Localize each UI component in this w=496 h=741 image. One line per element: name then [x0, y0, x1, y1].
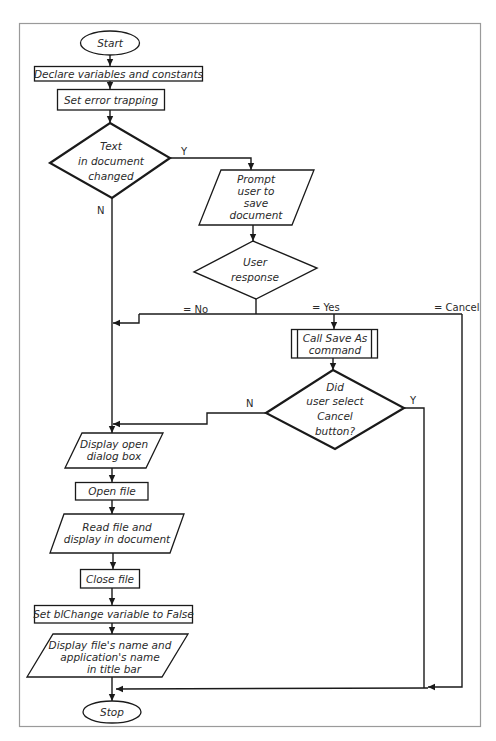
set-blchange-label: Set blChange variable to False: [33, 608, 194, 620]
stop-terminator: Stop: [83, 701, 141, 723]
save-as-subprocess: Call Save As command: [292, 330, 378, 359]
display-dialog-line2: dialog box: [87, 450, 142, 462]
open-file-process: Open file: [76, 483, 149, 501]
response-yes-label: = Yes: [312, 302, 340, 313]
error-trapping-label: Set error trapping: [64, 94, 159, 106]
read-file-line2: display in document: [64, 533, 171, 545]
decision-changed-line2: in document: [78, 155, 145, 167]
decision-cancel-line2: user select: [306, 395, 364, 407]
save-as-line2: command: [309, 344, 362, 356]
decision-changed-yes-label: Y: [180, 146, 188, 157]
stop-label: Stop: [100, 706, 124, 718]
prompt-line4: document: [230, 209, 284, 221]
close-file-process: Close file: [81, 570, 140, 589]
close-file-label: Close file: [86, 573, 134, 585]
decision-changed-line1: Text: [100, 140, 123, 152]
response-cancel-label: = Cancel: [434, 302, 479, 313]
display-title-line2: application's name: [60, 651, 159, 663]
decision-cancel-no-label: N: [246, 398, 253, 409]
decision-cancel-line1: Did: [326, 381, 344, 393]
prompt-line1: Prompt: [237, 173, 276, 185]
start-terminator: Start: [81, 31, 140, 55]
open-file-label: Open file: [88, 485, 136, 497]
display-dialog-io: Display open dialog box: [65, 433, 163, 468]
decision-cancel-yes-label: Y: [409, 395, 417, 406]
start-label: Start: [97, 37, 124, 49]
read-file-io: Read file and display in document: [50, 514, 184, 553]
read-file-line1: Read file and: [82, 521, 152, 533]
error-trapping-process: Set error trapping: [58, 90, 165, 111]
prompt-line3: save: [244, 197, 269, 209]
decision-changed-no-label: N: [97, 205, 104, 216]
declare-label: Declare variables and constants: [34, 68, 204, 80]
declare-process: Declare variables and constants: [34, 67, 204, 82]
display-title-io: Display file's name and application's na…: [27, 634, 188, 677]
decision-cancel-line3: Cancel: [317, 410, 353, 422]
display-title-line1: Display file's name and: [49, 639, 172, 651]
response-line2: response: [231, 271, 279, 283]
display-dialog-line1: Display open: [80, 438, 148, 450]
flowchart: Start Declare variables and constants Se…: [0, 0, 496, 741]
display-title-line3: in title bar: [87, 663, 142, 675]
prompt-line2: user to: [238, 185, 275, 197]
decision-changed-line3: changed: [88, 170, 134, 182]
set-blchange-process: Set blChange variable to False: [33, 606, 194, 624]
response-no-label: = No: [183, 304, 208, 315]
decision-cancel-line4: button?: [315, 425, 356, 437]
save-as-line1: Call Save As: [303, 332, 368, 344]
response-line1: User: [243, 256, 268, 268]
